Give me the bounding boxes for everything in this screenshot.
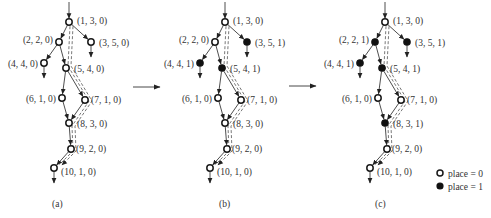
node-label-6: (6, 1, 0) xyxy=(342,94,372,105)
tree-panel-a: (1, 3, 0)(2, 2, 0)(3, 5, 0)(4, 4, 0)(5, … xyxy=(8,2,129,183)
edge-9-10 xyxy=(213,152,225,165)
node-9-open-icon xyxy=(68,146,74,152)
edge-5-6 xyxy=(63,72,66,94)
panel-label-a: (a) xyxy=(52,199,63,210)
edge-2-4 xyxy=(46,45,56,60)
node-label-2: (2, 2, 0) xyxy=(179,35,209,46)
edge-8-9 xyxy=(385,127,386,145)
node-10-open-icon xyxy=(367,165,373,171)
edge-8-9 xyxy=(225,127,226,145)
edge-5-7 xyxy=(68,71,83,96)
edge-5-6 xyxy=(379,72,382,94)
node-1-open-icon xyxy=(382,19,388,25)
node-3-filled-icon xyxy=(404,39,410,45)
node-label-2: (2, 2, 1) xyxy=(339,35,369,46)
edge-1-3 xyxy=(388,24,404,39)
legend-open-label: place = 0 xyxy=(448,169,483,179)
edge-1-2 xyxy=(217,25,223,38)
panel-label-c: (c) xyxy=(375,199,386,210)
node-2-open-icon xyxy=(212,39,218,45)
node-2-open-icon xyxy=(56,39,62,45)
edge-8-9 xyxy=(69,127,70,145)
edge-1-3 xyxy=(228,24,244,39)
edge-2-4 xyxy=(202,45,212,60)
node-label-10: (10, 1, 0) xyxy=(217,167,252,178)
node-label-1: (1, 3, 0) xyxy=(233,16,263,27)
node-label-8: (8, 3, 0) xyxy=(233,119,263,130)
edge-2-5 xyxy=(216,46,221,64)
node-9-open-icon xyxy=(224,146,230,152)
edge-1-2 xyxy=(377,25,383,38)
legend-filled-node-icon xyxy=(437,183,443,189)
node-8-open-icon xyxy=(222,120,228,126)
edge-6-8 xyxy=(219,102,224,119)
edge-1-3 xyxy=(72,24,88,39)
node-6-open-icon xyxy=(59,95,65,101)
node-label-3: (3, 5, 1) xyxy=(415,38,445,49)
node-label-5: (5, 4, 0) xyxy=(74,64,104,75)
node-label-4: (4, 4, 1) xyxy=(324,59,354,70)
node-label-1: (1, 3, 0) xyxy=(393,16,423,27)
node-4-open-icon xyxy=(41,60,47,66)
edge-5-7 xyxy=(224,71,239,96)
node-label-7: (7, 1, 0) xyxy=(91,95,121,106)
node-9-open-icon xyxy=(384,146,390,152)
node-label-7: (7, 1, 0) xyxy=(247,95,277,106)
node-label-4: (4, 4, 0) xyxy=(8,59,38,70)
node-2-filled-icon xyxy=(372,39,378,45)
node-4-filled-icon xyxy=(197,60,203,66)
edge-9-10 xyxy=(57,152,69,165)
node-8-filled-icon xyxy=(382,120,388,126)
edge-9-10 xyxy=(373,152,385,165)
tree-panel-c: (1, 3, 0)(2, 2, 1)(3, 5, 1)(4, 4, 1)(5, … xyxy=(324,2,445,183)
node-8-open-icon xyxy=(66,120,72,126)
node-5-filled-icon xyxy=(379,65,385,71)
node-5-filled-icon xyxy=(219,65,225,71)
edge-1-2 xyxy=(61,25,67,38)
node-7-open-icon xyxy=(398,97,404,103)
node-label-9: (9, 2, 0) xyxy=(232,144,262,155)
node-label-5: (5, 4, 1) xyxy=(230,64,260,75)
node-label-2: (2, 2, 0) xyxy=(23,35,53,46)
node-1-open-icon xyxy=(222,19,228,25)
node-4-filled-icon xyxy=(357,60,363,66)
node-label-1: (1, 3, 0) xyxy=(77,16,107,27)
node-6-open-icon xyxy=(215,95,221,101)
node-label-10: (10, 1, 0) xyxy=(61,167,96,178)
edge-6-8 xyxy=(63,102,68,119)
node-1-open-icon xyxy=(66,19,72,25)
edge-6-8 xyxy=(379,102,384,119)
node-label-9: (9, 2, 0) xyxy=(76,144,106,155)
edge-2-5 xyxy=(376,46,381,64)
node-label-8: (8, 3, 1) xyxy=(393,119,423,130)
node-label-7: (7, 1, 0) xyxy=(407,95,437,106)
node-3-open-icon xyxy=(88,39,94,45)
node-label-6: (6, 1, 0) xyxy=(182,94,212,105)
node-label-9: (9, 2, 0) xyxy=(392,144,422,155)
node-label-5: (5, 4, 1) xyxy=(390,64,420,75)
node-10-open-icon xyxy=(207,165,213,171)
edge-5-6 xyxy=(219,72,222,94)
node-5-open-icon xyxy=(63,65,69,71)
node-6-open-icon xyxy=(375,95,381,101)
node-label-3: (3, 5, 0) xyxy=(99,38,129,49)
node-10-open-icon xyxy=(51,165,57,171)
legend-open-node-icon xyxy=(437,170,443,176)
node-label-6: (6, 1, 0) xyxy=(26,94,56,105)
edge-5-7 xyxy=(384,71,399,96)
node-7-open-icon xyxy=(238,97,244,103)
node-7-open-icon xyxy=(82,97,88,103)
node-label-8: (8, 3, 0) xyxy=(77,119,107,130)
edge-2-5 xyxy=(60,46,65,64)
node-label-4: (4, 4, 1) xyxy=(164,59,194,70)
legend-filled-label: place = 1 xyxy=(448,182,483,192)
node-3-filled-icon xyxy=(244,39,250,45)
node-label-10: (10, 1, 0) xyxy=(377,167,412,178)
panel-label-b: (b) xyxy=(219,199,230,210)
placement-diagram: (1, 3, 0)(2, 2, 0)(3, 5, 0)(4, 4, 0)(5, … xyxy=(0,0,491,218)
tree-panel-b: (1, 3, 0)(2, 2, 0)(3, 5, 1)(4, 4, 1)(5, … xyxy=(164,2,285,183)
node-label-3: (3, 5, 1) xyxy=(255,38,285,49)
legend: place = 0 place = 1 xyxy=(437,169,483,192)
edge-2-4 xyxy=(362,45,372,60)
